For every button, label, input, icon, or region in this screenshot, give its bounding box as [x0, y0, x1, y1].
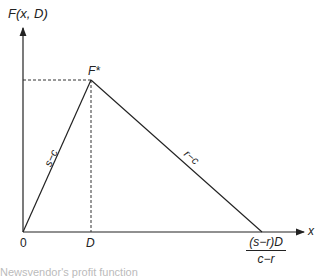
peak-label: F* [88, 64, 100, 78]
d-label: D [86, 236, 95, 250]
x-axis-label: x [308, 224, 314, 238]
fraction-denominator: c−r [246, 252, 286, 266]
fraction-numerator: (s−r)D [246, 235, 286, 249]
fraction-bar [246, 250, 286, 251]
origin-label: 0 [20, 236, 27, 250]
falling-segment [91, 80, 262, 232]
end-point-fraction: (s−r)D c−r [246, 235, 286, 266]
y-axis-label: F(x, D) [8, 6, 48, 21]
figure-caption: Newsvendor's profit function [0, 266, 138, 278]
